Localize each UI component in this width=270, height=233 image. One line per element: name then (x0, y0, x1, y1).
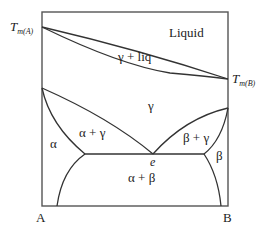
region-alpha-gamma: α + γ (79, 125, 106, 140)
region-liquid: Liquid (169, 25, 204, 40)
axis-label-b: B (223, 210, 232, 225)
region-alpha-beta: α + β (128, 170, 156, 185)
region-gamma-liq: γ + liq (117, 49, 152, 64)
melting-point-b: Tm(B) (232, 71, 256, 88)
region-beta-gamma: β + γ (183, 130, 209, 145)
gamma-alpha-boundary (42, 88, 153, 154)
alpha-solvus-lower (57, 154, 85, 206)
region-beta: β (216, 148, 223, 163)
eutectoid-point-label: e (150, 155, 156, 169)
melting-point-a: Tm(A) (10, 19, 34, 36)
axis-label-a: A (36, 210, 46, 225)
region-alpha: α (50, 136, 57, 151)
region-gamma: γ (147, 98, 154, 113)
phase-diagram: Liquid γ + liq γ α α + γ β + γ β α + β e… (0, 0, 270, 233)
